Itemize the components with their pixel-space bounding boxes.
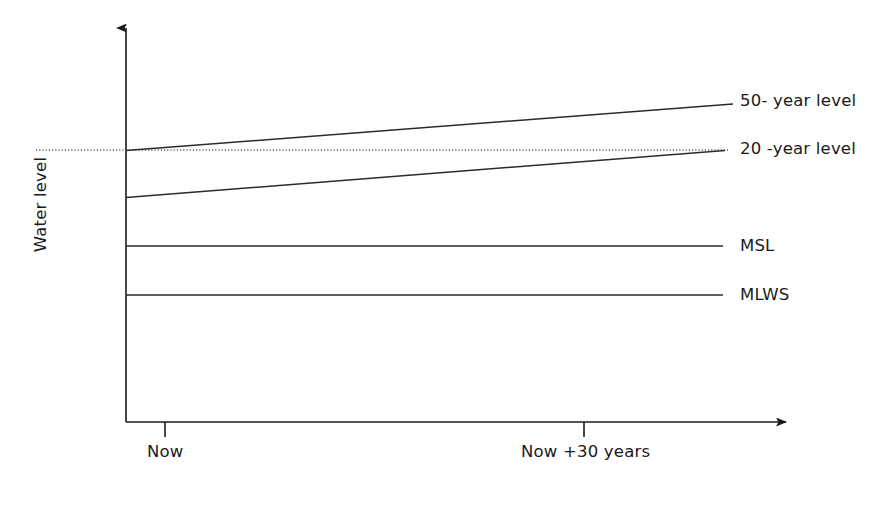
series-label-20-year-level: 20 -year level [740, 141, 856, 158]
series-line-20-year-level [126, 151, 725, 198]
x-axis-tick-label-now-plus-30-years: Now +30 years [521, 444, 650, 461]
series-label-msl: MSL [740, 238, 775, 255]
series-line-50-year-level [126, 104, 733, 151]
x-axis-tick-label-now: Now [147, 444, 184, 461]
chart-figure: Water level 50- year level 20 -year leve… [0, 0, 880, 507]
y-axis-label: Water level [31, 105, 50, 305]
series-label-50-year-level: 50- year level [740, 93, 856, 110]
y-axis-label-container: Water level [0, 0, 126, 422]
series-label-mlws: MLWS [740, 287, 790, 304]
